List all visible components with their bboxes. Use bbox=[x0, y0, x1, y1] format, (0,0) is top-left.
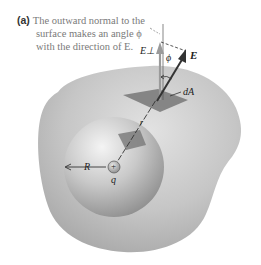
caption-line-1: The outward normal to the bbox=[33, 15, 145, 26]
label-phi: ϕ bbox=[166, 52, 171, 63]
label-r: r bbox=[140, 118, 143, 127]
caption-line-3: with the direction of E. bbox=[17, 40, 145, 53]
caption-leader bbox=[150, 28, 160, 34]
gauss-law-diagram: (a)The outward normal to the surface mak… bbox=[0, 0, 261, 265]
label-e-perp: E⊥ bbox=[140, 45, 155, 56]
label-R: R bbox=[84, 161, 90, 172]
projection-dashed-line bbox=[161, 42, 186, 51]
label-e-field: E bbox=[190, 49, 197, 61]
caption-line-2: surface makes an angle ϕ bbox=[17, 27, 145, 40]
panel-label: (a) bbox=[17, 14, 30, 26]
label-charge-sign: + bbox=[111, 161, 116, 171]
e-field-arrowhead bbox=[178, 49, 186, 63]
label-q: q bbox=[111, 174, 116, 185]
label-dA: dA bbox=[183, 86, 194, 97]
figure-caption: (a)The outward normal to the surface mak… bbox=[17, 14, 145, 53]
